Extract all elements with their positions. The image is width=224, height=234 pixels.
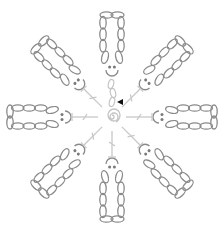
slip-stitch-dot [108,166,111,169]
arc-stitch [106,70,118,76]
start-arrow-icon [117,99,123,105]
start-chain-ovals [107,79,116,107]
spoke-stitch [81,86,105,110]
spoke-stitch [126,113,152,121]
chain-loop [7,105,59,129]
arc-stitch [106,158,118,164]
chain-loop [100,12,124,64]
slip-stitch-dot [161,113,164,116]
slip-stitch-dot [61,113,64,116]
chain-loop [100,170,124,222]
spoke-stitch [119,86,143,110]
arc-stitch [65,111,71,123]
slip-stitch-dot [144,78,148,82]
petal [29,137,92,200]
slip-stitch-dot [144,152,148,156]
slip-stitch-dot [147,81,151,85]
chain-loop [141,146,195,200]
chain-loop [141,34,195,88]
chain-loop [29,34,83,88]
petal [132,137,195,200]
slip-stitch-dot [73,81,77,85]
chain-loop [165,105,217,129]
petal [100,158,124,222]
arc-stitch [153,111,159,123]
petal [132,34,195,97]
petals-group [7,12,217,222]
slip-stitch-dot [76,152,80,156]
chain-loop [29,146,83,200]
petal [100,12,124,76]
slip-stitch-dot [161,118,164,121]
magic-ring-spiral [108,109,120,122]
spoke-stitch [81,124,105,148]
start-chain [107,79,123,107]
slip-stitch-dot [147,149,151,153]
slip-stitch-dot [73,149,77,153]
spoke-stitch [72,113,98,121]
slip-stitch-dot [76,78,80,82]
spoke-stitch [108,131,116,157]
petal [7,105,71,129]
petal [29,34,92,97]
spoke-stitch [119,124,143,148]
petal [153,105,217,129]
crochet-flower-diagram [0,0,224,234]
magic-ring-center [108,109,120,122]
slip-stitch-dot [108,66,111,69]
slip-stitch-dot [113,66,116,69]
slip-stitch-dot [113,166,116,169]
slip-stitch-dot [61,118,64,121]
